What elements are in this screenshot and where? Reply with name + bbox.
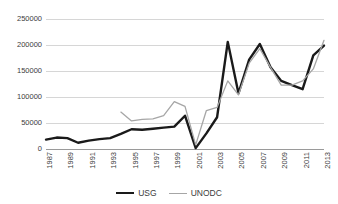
y-axis-tick-label: 100000 xyxy=(0,93,42,101)
x-axis-tick-label: 1999 xyxy=(174,152,182,169)
x-axis-tick-labels: 1987198919911993199519971999200120032005… xyxy=(46,150,324,184)
x-axis-tick-label: 1989 xyxy=(67,152,75,169)
x-axis-tick-label: 2011 xyxy=(303,152,311,168)
y-axis-tick-label: 150000 xyxy=(0,67,42,75)
x-axis-tick-label: 1993 xyxy=(110,152,118,169)
chart-legend: USG UNODC xyxy=(0,184,338,202)
legend-label-unodc: UNODC xyxy=(191,189,222,198)
x-axis-tick-label: 2013 xyxy=(324,152,332,169)
x-axis-tick-label: 2009 xyxy=(281,152,289,169)
x-axis-tick-label: 1997 xyxy=(153,152,161,169)
x-axis-tick-label: 2001 xyxy=(196,152,204,169)
y-axis-tick-label: 200000 xyxy=(0,41,42,49)
line-chart: 050000100000150000200000250000 198719891… xyxy=(0,0,338,204)
series-group xyxy=(46,19,324,149)
legend-line-swatch-usg xyxy=(116,192,134,194)
plot-area: 050000100000150000200000250000 xyxy=(46,19,324,149)
x-axis-tick-label: 1987 xyxy=(46,152,54,169)
x-axis-tick-label: 1991 xyxy=(89,152,97,169)
series-line-usg xyxy=(46,42,324,148)
x-axis-tick-label: 2007 xyxy=(260,152,268,169)
x-axis-tick-label: 2005 xyxy=(238,152,246,169)
y-axis-tick-label: 50000 xyxy=(0,119,42,127)
y-axis-tick-label: 0 xyxy=(0,145,42,153)
x-axis-tick-label: 1995 xyxy=(132,152,140,169)
legend-line-swatch-unodc xyxy=(169,193,187,194)
legend-label-usg: USG xyxy=(138,189,156,198)
y-axis-tick-label: 250000 xyxy=(0,15,42,23)
x-axis-tick-label: 2003 xyxy=(217,152,225,169)
legend-item-unodc: UNODC xyxy=(169,189,222,198)
legend-item-usg: USG xyxy=(116,189,156,198)
